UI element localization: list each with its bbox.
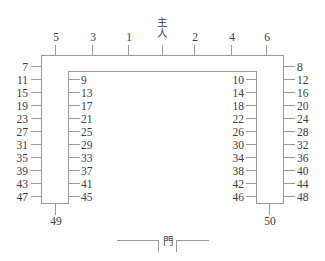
seat-label-right-outer-16: 16 bbox=[297, 87, 319, 99]
seat-label-top-1: 1 bbox=[118, 31, 140, 43]
seat-label-right-inner-34: 34 bbox=[222, 152, 244, 164]
seat-label-left-outer-35: 35 bbox=[6, 152, 28, 164]
seat-label-right-inner-18: 18 bbox=[222, 100, 244, 112]
seat-label-top-3: 3 bbox=[82, 31, 104, 43]
seat-label-right-outer-44: 44 bbox=[297, 178, 319, 190]
seat-label-left-outer-7: 7 bbox=[6, 61, 28, 73]
seat-label-right-inner-10: 10 bbox=[222, 74, 244, 86]
seat-label-left-outer-27: 27 bbox=[6, 126, 28, 138]
seat-label-left-inner-45: 45 bbox=[81, 191, 103, 203]
seat-label-left-outer-23: 23 bbox=[6, 113, 28, 125]
seat-label-right-outer-36: 36 bbox=[297, 152, 319, 164]
seat-label-left-outer-43: 43 bbox=[6, 178, 28, 190]
seat-label-left-inner-41: 41 bbox=[81, 178, 103, 190]
seat-label-left-inner-13: 13 bbox=[81, 87, 103, 99]
seat-label-right-inner-38: 38 bbox=[222, 165, 244, 177]
seat-label-left-outer-15: 15 bbox=[6, 87, 28, 99]
seat-label-right-inner-14: 14 bbox=[222, 87, 244, 99]
seat-label-left-inner-29: 29 bbox=[81, 139, 103, 151]
seat-label-left-outer-39: 39 bbox=[6, 165, 28, 177]
seat-label-left-inner-17: 17 bbox=[81, 100, 103, 112]
seat-label-top-5: 5 bbox=[45, 31, 67, 43]
seat-label-left-inner-25: 25 bbox=[81, 126, 103, 138]
seat-label-right-inner-42: 42 bbox=[222, 178, 244, 190]
seat-label-right-outer-12: 12 bbox=[297, 74, 319, 86]
seat-label-left-inner-21: 21 bbox=[81, 113, 103, 125]
seating-chart: 主 人 5 3 1 2 4 6 7 11 15 19 23 27 31 35 3… bbox=[0, 0, 325, 261]
seat-label-left-outer-11: 11 bbox=[6, 74, 28, 86]
seat-label-right-outer-48: 48 bbox=[297, 191, 319, 203]
seat-label-right-outer-24: 24 bbox=[297, 113, 319, 125]
seat-label-right-inner-30: 30 bbox=[222, 139, 244, 151]
seat-label-right-outer-20: 20 bbox=[297, 100, 319, 112]
seat-label-right-outer-40: 40 bbox=[297, 165, 319, 177]
seat-label-layer: 主 人 5 3 1 2 4 6 7 11 15 19 23 27 31 35 3… bbox=[0, 0, 325, 261]
seat-label-left-outer-31: 31 bbox=[6, 139, 28, 151]
seat-label-left-outer-19: 19 bbox=[6, 100, 28, 112]
seat-label-left-inner-9: 9 bbox=[81, 74, 103, 86]
seat-label-right-inner-26: 26 bbox=[222, 126, 244, 138]
seat-label-right-inner-22: 22 bbox=[222, 113, 244, 125]
seat-label-bottom-49: 49 bbox=[45, 215, 67, 227]
seat-label-right-outer-28: 28 bbox=[297, 126, 319, 138]
seat-label-right-outer-8: 8 bbox=[297, 61, 319, 73]
seat-label-top-2: 2 bbox=[184, 31, 206, 43]
seat-label-top-6: 6 bbox=[256, 31, 278, 43]
seat-label-bottom-50: 50 bbox=[259, 215, 281, 227]
seat-label-top-4: 4 bbox=[221, 31, 243, 43]
seat-label-left-outer-47: 47 bbox=[6, 191, 28, 203]
seat-label-left-inner-33: 33 bbox=[81, 152, 103, 164]
seat-label-right-outer-32: 32 bbox=[297, 139, 319, 151]
host-label-char-2: 人 bbox=[151, 28, 173, 39]
host-label: 主 人 bbox=[151, 17, 173, 39]
door-label: 門 bbox=[161, 236, 175, 247]
seat-label-left-inner-37: 37 bbox=[81, 165, 103, 177]
seat-label-right-inner-46: 46 bbox=[222, 191, 244, 203]
